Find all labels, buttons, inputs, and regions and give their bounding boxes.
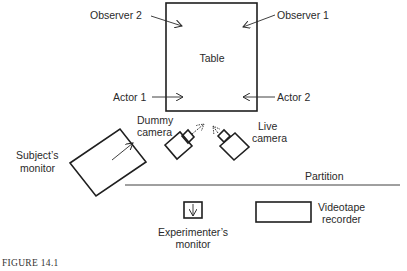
dummy-camera-label-line2: camera <box>137 126 172 138</box>
lab-layout-diagram: Table Observer 2 Observer 1 Actor 1 Acto… <box>0 0 407 271</box>
videotape-recorder-label-line2: recorder <box>322 213 362 225</box>
dummy-camera-label-line1: Dummy <box>137 114 174 126</box>
subjects-monitor-label-line2: monitor <box>20 162 56 174</box>
videotape-recorder-label-line1: Videotape <box>318 201 365 213</box>
experimenters-monitor-icon <box>184 202 202 218</box>
table-label: Table <box>199 52 224 64</box>
observer-2-label: Observer 2 <box>90 9 142 21</box>
actor-1-label: Actor 1 <box>113 91 146 103</box>
live-camera-label-line1: Live <box>258 120 277 132</box>
actor-2-label: Actor 2 <box>277 91 310 103</box>
observer-1-arrow <box>243 15 275 27</box>
subjects-monitor-label-line1: Subject’s <box>16 149 58 161</box>
live-camera-icon <box>213 126 249 160</box>
figure-caption: FIGURE 14.1 <box>2 258 59 268</box>
observer-1-label: Observer 1 <box>277 9 329 21</box>
experimenters-monitor-label-line2: monitor <box>175 238 211 250</box>
experimenters-monitor-label-line1: Experimenter’s <box>158 226 228 238</box>
live-camera-label-line2: camera <box>252 132 287 144</box>
partition-label: Partition <box>305 170 344 182</box>
videotape-recorder-box <box>256 202 311 222</box>
subjects-monitor-icon <box>70 129 146 196</box>
